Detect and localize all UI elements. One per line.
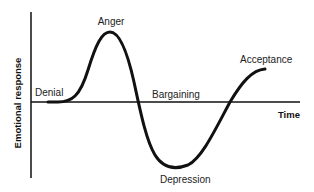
stages-of-grief-diagram: Anger Denial Bargaining Acceptance Depre… bbox=[0, 0, 314, 192]
label-denial: Denial bbox=[35, 87, 63, 98]
y-axis-title: Emotional response bbox=[12, 58, 23, 149]
label-depression: Depression bbox=[160, 174, 211, 185]
label-acceptance: Acceptance bbox=[240, 54, 293, 65]
label-anger: Anger bbox=[98, 16, 125, 27]
label-bargaining: Bargaining bbox=[152, 89, 200, 100]
x-axis-title: Time bbox=[278, 109, 300, 120]
